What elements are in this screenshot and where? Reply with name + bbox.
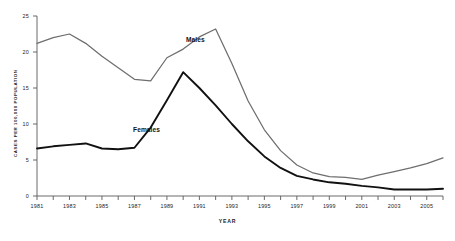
x-tick-label: 1987 bbox=[119, 203, 149, 209]
x-tick-label: 1985 bbox=[87, 203, 117, 209]
x-tick-marks bbox=[37, 196, 443, 200]
x-tick-label: 2001 bbox=[347, 203, 377, 209]
series-line-males bbox=[37, 29, 443, 179]
x-tick-label: 1995 bbox=[249, 203, 279, 209]
x-tick-label: 1989 bbox=[152, 203, 182, 209]
axes bbox=[37, 16, 443, 196]
y-tick-label: 25 bbox=[13, 13, 29, 19]
y-tick-label: 15 bbox=[13, 85, 29, 91]
line-chart: CASES PER 100,000 POPULATION YEAR 051015… bbox=[0, 0, 455, 241]
series-label-males: Males bbox=[186, 36, 205, 43]
x-tick-label: 1983 bbox=[54, 203, 84, 209]
y-tick-label: 0 bbox=[13, 193, 29, 199]
y-axis-title: CASES PER 100,000 POPULATION bbox=[9, 38, 23, 188]
x-tick-label: 1999 bbox=[314, 203, 344, 209]
y-tick-label: 10 bbox=[13, 121, 29, 127]
y-tick-label: 20 bbox=[13, 49, 29, 55]
x-tick-label: 1981 bbox=[22, 203, 52, 209]
x-tick-label: 2005 bbox=[412, 203, 442, 209]
x-tick-label: 1997 bbox=[282, 203, 312, 209]
x-tick-label: 1993 bbox=[217, 203, 247, 209]
x-axis-title: YEAR bbox=[0, 218, 455, 224]
series-label-females: Females bbox=[133, 126, 160, 133]
series-line-females bbox=[37, 72, 443, 189]
x-tick-label: 1991 bbox=[184, 203, 214, 209]
x-tick-label: 2003 bbox=[379, 203, 409, 209]
y-tick-marks bbox=[33, 16, 37, 196]
series-lines bbox=[37, 29, 443, 190]
y-tick-label: 5 bbox=[13, 157, 29, 163]
